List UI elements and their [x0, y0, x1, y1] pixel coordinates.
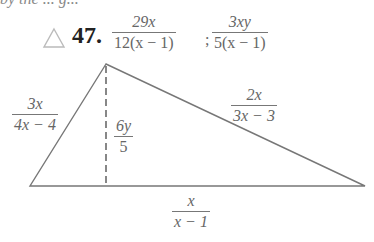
numerator: 2x — [244, 87, 263, 103]
fraction-bar — [172, 211, 210, 212]
denominator: 5 — [118, 139, 130, 155]
denominator: x − 1 — [172, 214, 210, 230]
denominator: 3x − 3 — [231, 108, 277, 124]
height-label: 6y 5 — [114, 118, 133, 155]
left-side-label: 3x 4x − 4 — [12, 96, 58, 133]
numerator: 3x — [25, 96, 44, 112]
right-side-label: 2x 3x − 3 — [231, 87, 277, 124]
fraction-bar — [231, 105, 277, 106]
numerator: 6y — [114, 118, 133, 134]
base-label: x x − 1 — [172, 193, 210, 230]
denominator: 4x − 4 — [12, 117, 58, 133]
fraction-bar — [114, 136, 133, 137]
numerator: x — [185, 193, 196, 209]
fraction-bar — [12, 114, 58, 115]
